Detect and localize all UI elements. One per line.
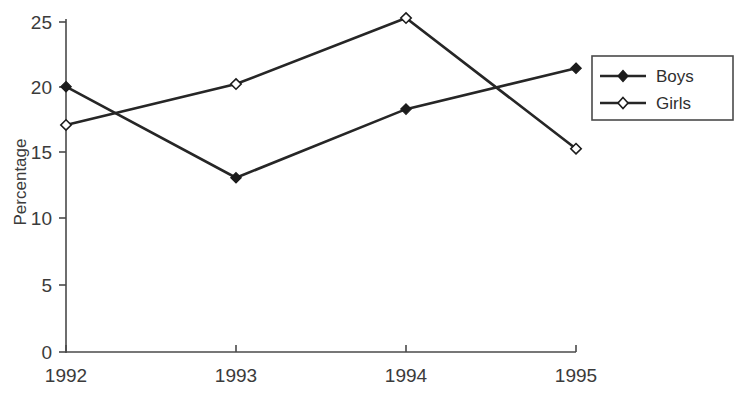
filled-diamond-marker-boys-1992 bbox=[61, 81, 71, 91]
y-tick-label-10: 10 bbox=[31, 208, 52, 229]
x-axis-ticks: 1992 1993 1994 1995 bbox=[45, 345, 597, 386]
filled-diamond-marker-boys-1995 bbox=[571, 63, 581, 73]
y-tick-label-5: 5 bbox=[41, 275, 52, 296]
legend-label-girls: Girls bbox=[656, 94, 691, 113]
series-girls bbox=[61, 13, 581, 154]
filled-diamond-marker-boys-1993 bbox=[231, 173, 241, 183]
legend-label-boys: Boys bbox=[656, 67, 694, 86]
y-tick-label-15: 15 bbox=[31, 142, 52, 163]
open-diamond-marker-girls-1992 bbox=[61, 120, 71, 130]
series-line-boys bbox=[66, 68, 576, 178]
y-tick-label-0: 0 bbox=[41, 342, 52, 363]
x-tick-label-1993: 1993 bbox=[215, 365, 257, 386]
y-axis-ticks: 25 20 15 10 5 0 bbox=[31, 12, 66, 363]
series-layer bbox=[61, 13, 581, 183]
filled-diamond-marker-boys-1994 bbox=[401, 104, 411, 114]
y-tick-label-20: 20 bbox=[31, 77, 52, 98]
y-axis-title: Percentage bbox=[11, 139, 30, 226]
x-tick-label-1994: 1994 bbox=[385, 365, 428, 386]
x-tick-label-1995: 1995 bbox=[555, 365, 597, 386]
y-tick-label-25: 25 bbox=[31, 12, 52, 33]
chart-canvas: Percentage 25 20 15 10 5 0 1992 1993 bbox=[0, 0, 746, 402]
line-chart: Percentage 25 20 15 10 5 0 1992 1993 bbox=[0, 0, 746, 402]
legend: Boys Girls bbox=[592, 56, 733, 120]
open-diamond-marker-girls-1993 bbox=[231, 79, 241, 89]
x-tick-label-1992: 1992 bbox=[45, 365, 87, 386]
series-boys bbox=[61, 63, 581, 183]
